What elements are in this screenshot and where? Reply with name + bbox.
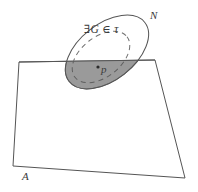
- point-label-p: p: [101, 64, 107, 75]
- topology-neighborhood-figure: N ∃G ∈ τ p A: [0, 0, 198, 192]
- open-set-label-G: ∃G ∈ τ: [84, 24, 119, 36]
- neighborhood-label-N: N: [150, 10, 157, 21]
- plane-label-A: A: [22, 171, 29, 182]
- point-p-marker: [96, 65, 99, 68]
